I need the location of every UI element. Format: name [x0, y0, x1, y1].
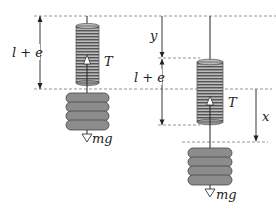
weight-arrow-icon: [205, 189, 215, 197]
arrow-up-icon: [160, 59, 165, 65]
left-length-label: l + e: [12, 45, 43, 60]
right-weight: [188, 148, 232, 185]
left-tension-label: T: [104, 54, 114, 69]
right-x-label: x: [262, 109, 270, 124]
right-length-label: l + e: [134, 70, 165, 85]
spring-mass-diagram: l + e T mg y: [0, 0, 276, 212]
right-y-label: y: [149, 28, 158, 43]
right-weight-label: mg: [216, 187, 237, 202]
arrow-down-icon: [160, 120, 165, 126]
left-system: l + e T mg: [10, 16, 114, 146]
arrow-up-icon: [38, 16, 43, 22]
arrow-down-icon: [254, 136, 259, 142]
right-system: y l + e T x mg: [132, 16, 270, 202]
left-weight: [66, 93, 109, 130]
arrow-down-icon: [38, 83, 43, 89]
arrow-down-icon: [160, 52, 165, 58]
left-weight-label: mg: [92, 131, 113, 146]
weight-arrow-icon: [82, 134, 92, 142]
right-tension-label: T: [228, 95, 238, 110]
